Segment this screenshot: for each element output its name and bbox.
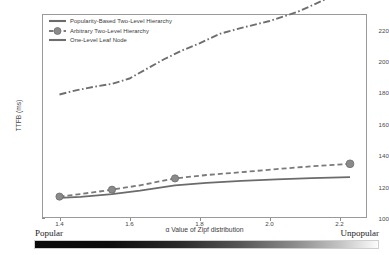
y-tick-label: 220 <box>367 26 389 33</box>
x-tick-mark <box>340 218 341 221</box>
x-tick-mark <box>60 218 61 221</box>
legend-item-arbitrary: Arbitrary Two-Level Hierarchy <box>49 27 172 35</box>
thick-line-key-icon <box>49 36 66 44</box>
legend-item-popularity-based: Popularity-Based Two-Level Hierarchy <box>49 17 172 25</box>
legend-label: Popularity-Based Two-Level Hierarchy <box>70 18 172 24</box>
circle-marker-key-icon <box>49 27 66 35</box>
chart-legend: Popularity-Based Two-Level Hierarchy Arb… <box>49 17 172 44</box>
y-tick-label: 140 <box>367 152 389 159</box>
unpopular-extreme-label: Unpopular <box>341 228 380 238</box>
y-tick-label: 120 <box>367 183 389 190</box>
chart-figure: TTFB (ms) 100 120 140 160 180 200 220 <box>0 0 389 255</box>
legend-item-one-level-leaf: One-Level Leaf Node <box>49 36 172 44</box>
legend-label: Arbitrary Two-Level Hierarchy <box>70 28 149 34</box>
gradient-fill <box>34 240 379 249</box>
y-tick-label: 160 <box>367 120 389 127</box>
legend-label: One-Level Leaf Node <box>70 37 127 43</box>
x-tick-mark <box>130 218 131 221</box>
solid-line-key-icon <box>49 17 66 25</box>
popularity-gradient-bar <box>34 240 379 249</box>
x-tick-mark <box>200 218 201 221</box>
y-axis-label: TTFB (ms) <box>15 76 22 156</box>
x-tick-mark <box>270 218 271 221</box>
y-tick-label: 100 <box>367 215 389 222</box>
y-tick-label: 180 <box>367 89 389 96</box>
y-tick-mark <box>42 218 45 219</box>
popular-extreme-label: Popular <box>35 228 63 238</box>
y-tick-label: 200 <box>367 58 389 65</box>
plot-area <box>42 14 367 218</box>
x-axis-label: α Value of Zipf distribution <box>42 226 367 233</box>
